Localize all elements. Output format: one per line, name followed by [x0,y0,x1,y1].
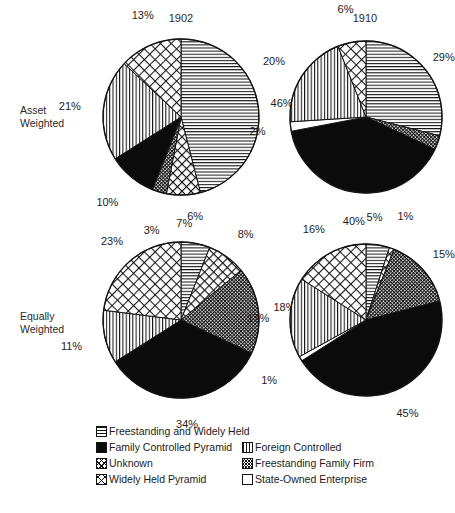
pie-svg [281,235,451,405]
legend-item-unknown: Unknown [96,457,242,469]
pie-slice-value-label: 21% [59,100,81,112]
legend-item-family-controlled-pyramid: Family Controlled Pyramid [96,441,242,453]
legend-label: Unknown [109,457,153,469]
pie-svg [96,235,266,405]
legend-swatch-solid-black-icon [96,442,107,453]
legend-item-freestanding-family-firm: Freestanding Family Firm [242,457,392,469]
legend: Freestanding and Widely Held Family Cont… [96,425,396,489]
legend-swatch-x-crosshatch-icon [96,474,107,485]
pie-chart-equally-weighted-1910: 5%1%15%45%1%17%16% [281,235,451,405]
pie-slice-value-label: 20% [263,55,285,67]
pie-chart-asset-weighted-1902: 46%7%3%10%21%13% [96,32,266,202]
legend-row: Freestanding and Widely Held [96,425,396,441]
legend-swatch-diagonal-crosshatch-icon [96,458,107,469]
legend-item-foreign-controlled: Foreign Controlled [242,441,392,453]
legend-item-widely-held-pyramid: Widely Held Pyramid [96,473,242,485]
legend-label: Freestanding and Widely Held [109,425,250,437]
legend-label: Freestanding Family Firm [255,457,374,469]
legend-label: Widely Held Pyramid [109,473,206,485]
pie-slice-value-label: 16% [303,223,325,235]
pie-slice-value-label: 6% [187,210,203,222]
figure-pie-chart-grid: 1902 1910 Asset Weighted Equally Weighte… [0,0,455,513]
pie-svg [96,32,266,202]
row-label-asset-line2: Weighted [20,117,90,130]
pie-chart-equally-weighted-1902: 6%8%18%34%11%23% [96,235,266,405]
row-label-equal-line2: Weighted [20,323,90,336]
pie-slice-value-label: 29% [433,51,455,63]
pie-slice-value-label: 8% [238,228,254,240]
pie-slice-value-label: 40% [343,215,365,227]
row-label-equal-line1: Equally [20,310,90,323]
legend-swatch-horizontal-lines-icon [96,426,107,437]
legend-swatch-empty-white-icon [242,474,253,485]
legend-label: State-Owned Enterprise [255,473,367,485]
legend-row: Family Controlled Pyramid Foreign Contro… [96,441,396,457]
pie-slice-value-label: 15% [433,248,455,260]
pie-slice-value-label: 23% [101,235,123,247]
legend-label: Family Controlled Pyramid [109,441,232,453]
pie-slice-value-label: 13% [132,9,154,21]
pie-chart-asset-weighted-1910: 29%3%40%2%20%6% [281,32,451,202]
pie-svg [281,32,451,202]
legend-swatch-vertical-lines-icon [242,442,253,453]
pie-slice-value-label: 45% [396,407,418,419]
legend-row: Unknown Freestanding Family Firm [96,457,396,473]
pie-slice-value-label: 1% [261,374,277,386]
legend-swatch-fine-stipple-icon [242,458,253,469]
legend-label: Foreign Controlled [255,441,341,453]
pie-slice-value-label: 17% [247,312,269,324]
legend-item-state-owned-enterprise: State-Owned Enterprise [242,473,392,485]
legend-item-freestanding-and-widely-held: Freestanding and Widely Held [96,425,242,437]
pie-slice [104,242,181,320]
pie-slice-value-label: 10% [96,196,118,208]
pie-slice-value-label: 1% [398,210,414,222]
pie-slice-value-label: 11% [61,340,82,352]
pie-slice-value-label: 5% [367,211,383,223]
pie-slice-value-label: 2% [250,125,266,137]
pie-slice-value-label: 6% [338,3,354,15]
row-label-equally-weighted: Equally Weighted [20,310,90,336]
legend-row: Widely Held Pyramid State-Owned Enterpri… [96,473,396,489]
